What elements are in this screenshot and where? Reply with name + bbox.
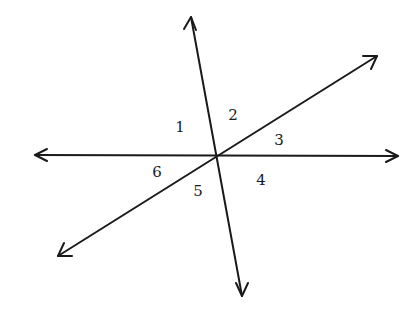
angle-label-6: 6: [152, 163, 162, 181]
angle-label-1: 1: [175, 118, 185, 136]
angle-label-2: 2: [228, 106, 238, 124]
arrow-down-icon: [236, 283, 248, 296]
angle-label-4: 4: [256, 171, 266, 189]
angle-label-5: 5: [193, 182, 203, 200]
angle-diagram: 1 2 3 4 5 6: [0, 0, 419, 316]
angle-label-3: 3: [274, 131, 284, 149]
arrow-up-icon: [184, 17, 196, 30]
